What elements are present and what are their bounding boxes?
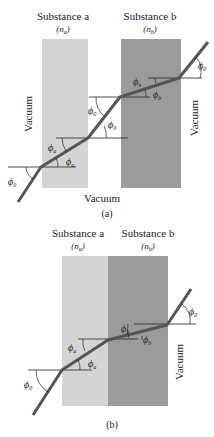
substance-a-label: Substance a [37, 10, 89, 22]
vacuum-bottom-label: Vacuum [84, 192, 120, 204]
vacuum-right-label: Vacuum [173, 344, 185, 380]
substance-a-label: Substance a [52, 227, 104, 239]
substance-b-label: Substance b [122, 227, 175, 239]
caption-a: (a) [101, 208, 112, 220]
slab-a [62, 256, 108, 406]
index-a-label: (na) [71, 241, 85, 252]
vacuum-right-label: Vacuum [188, 100, 200, 136]
index-b-label: (nb) [143, 24, 157, 35]
svg-text:ϕ0: ϕ0 [189, 306, 197, 318]
svg-text:ϕ0: ϕ0 [108, 119, 116, 131]
panel-b: Substance a (na) Substance b (nb) Vacuum… [24, 227, 197, 431]
slab-a [42, 39, 88, 188]
svg-text:ϕ0: ϕ0 [8, 176, 16, 188]
svg-text:ϕ0: ϕ0 [24, 379, 32, 391]
panel-a: Substance a (na) Substance b (nb) Vacuum… [8, 10, 208, 220]
refraction-diagram: Substance a (na) Substance b (nb) Vacuum… [0, 0, 214, 437]
slab-b [121, 39, 181, 188]
index-a-label: (na) [56, 24, 70, 35]
index-b-label: (nb) [141, 241, 155, 252]
svg-text:ϕ0: ϕ0 [88, 105, 96, 117]
substance-b-label: Substance b [124, 10, 177, 22]
svg-text:ϕ0: ϕ0 [198, 60, 206, 72]
vacuum-left-label: Vacuum [22, 96, 34, 132]
caption-b: (b) [106, 419, 118, 431]
